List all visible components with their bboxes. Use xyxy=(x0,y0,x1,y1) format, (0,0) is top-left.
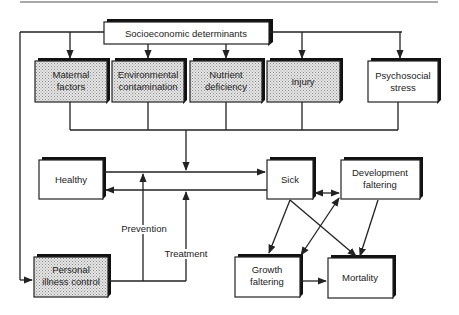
svg-text:contamination: contamination xyxy=(118,81,177,92)
node-mortality: Mortality xyxy=(328,255,396,299)
node-healthy: Healthy xyxy=(39,157,106,200)
node-environmental-contamination: Environmental contamination xyxy=(112,58,187,104)
svg-text:stress: stress xyxy=(390,82,416,93)
svg-text:Nutrient: Nutrient xyxy=(209,69,243,80)
node-socioeconomic-determinants: Socioeconomic determinants xyxy=(104,19,273,46)
node-growth-faltering: Growth faltering xyxy=(235,254,303,298)
node-sick: Sick xyxy=(267,157,316,200)
svg-text:factors: factors xyxy=(57,81,86,92)
svg-text:Personal: Personal xyxy=(52,264,90,275)
svg-text:Development: Development xyxy=(352,167,408,178)
health-determinants-diagram: Socioeconomic determinants Maternal fact… xyxy=(0,0,459,315)
svg-text:faltering: faltering xyxy=(250,276,284,287)
node-nutrient-deficiency: Nutrient deficiency xyxy=(190,58,265,104)
svg-text:Sick: Sick xyxy=(281,174,299,185)
svg-text:deficiency: deficiency xyxy=(205,81,247,92)
svg-text:faltering: faltering xyxy=(363,179,397,190)
svg-text:Environmental: Environmental xyxy=(118,69,179,80)
prevention-label: Prevention xyxy=(121,223,166,234)
svg-text:Maternal: Maternal xyxy=(53,69,90,80)
svg-text:Healthy: Healthy xyxy=(55,174,87,185)
node-psychosocial-stress: Psychosocial stress xyxy=(368,58,441,104)
healthy-sick-arrows xyxy=(103,172,267,190)
node-maternal-factors: Maternal factors xyxy=(35,58,110,104)
node-label: Socioeconomic determinants xyxy=(125,28,247,39)
svg-text:Growth: Growth xyxy=(252,264,283,275)
svg-text:illness control: illness control xyxy=(42,276,100,287)
svg-text:Injury: Injury xyxy=(291,76,314,87)
node-development-faltering: Development faltering xyxy=(341,157,423,200)
treatment-label: Treatment xyxy=(165,248,208,259)
node-personal-illness-control: Personal illness control xyxy=(34,254,111,298)
svg-text:Psychosocial: Psychosocial xyxy=(375,70,430,81)
node-injury: Injury xyxy=(267,58,343,104)
svg-text:Mortality: Mortality xyxy=(342,272,378,283)
